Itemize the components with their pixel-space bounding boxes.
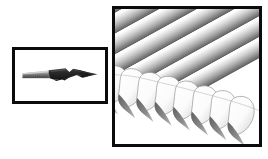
- serration-magnified-image: [115, 9, 259, 144]
- magnified-serration-panel: [112, 6, 262, 147]
- whole-blade-inset-panel: [12, 47, 108, 104]
- figure-root: [0, 0, 268, 159]
- whole-blade-image: [15, 50, 105, 101]
